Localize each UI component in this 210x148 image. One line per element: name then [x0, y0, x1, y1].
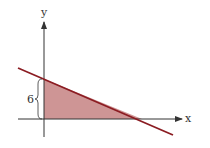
height-brace [35, 79, 42, 119]
y-axis-label: y [40, 6, 48, 19]
x-axis-label: x [185, 112, 192, 125]
graph: 6 y x [0, 0, 210, 148]
boundary-line [18, 68, 173, 135]
height-label: 6 [27, 93, 34, 106]
